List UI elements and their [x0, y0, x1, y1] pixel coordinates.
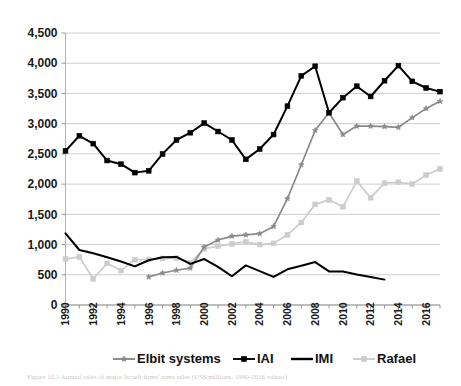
data-point-marker: [243, 232, 249, 237]
data-point-marker: [396, 63, 401, 68]
data-point-marker: [354, 84, 359, 89]
data-point-marker: [216, 129, 221, 134]
data-point-marker: [105, 158, 110, 163]
data-point-marker: [230, 242, 235, 247]
data-point-marker: [119, 268, 124, 273]
chart-legend: Elbit systemsIAIIMIRafael: [113, 351, 416, 366]
series-iai: [63, 63, 442, 175]
x-axis-tick-label: 2014: [392, 302, 404, 326]
data-point-marker: [146, 168, 151, 173]
legend-item-imi[interactable]: IMI: [291, 351, 333, 366]
y-axis-tick-label: 500: [37, 268, 57, 282]
data-point-marker: [341, 95, 346, 100]
data-point-marker: [257, 147, 262, 152]
data-point-marker: [160, 151, 165, 156]
x-axis-tick-label: 1994: [115, 302, 127, 326]
legend-item-label: IMI: [315, 351, 333, 366]
data-point-marker: [368, 195, 373, 200]
series-elbit-systems: [146, 98, 443, 279]
series-line: [66, 233, 385, 279]
data-point-marker: [242, 357, 247, 362]
line-chart: 05001,0001,5002,0002,5003,0003,5004,0004…: [0, 0, 461, 386]
data-point-marker: [243, 157, 248, 162]
data-point-marker: [121, 356, 127, 362]
data-point-marker: [438, 89, 443, 94]
data-point-marker: [174, 267, 180, 272]
x-axis-tick-label: 2012: [364, 302, 376, 326]
data-point-marker: [299, 74, 304, 79]
legend-item-label: IAI: [257, 351, 274, 366]
data-point-marker: [396, 180, 401, 185]
data-point-marker: [285, 196, 291, 201]
x-axis-tick-label: 2008: [309, 302, 321, 326]
data-point-marker: [91, 277, 96, 282]
series-line: [149, 101, 440, 277]
x-axis-tick-label: 2010: [337, 302, 349, 326]
y-axis-tick-label: 0: [51, 298, 58, 312]
data-point-marker: [77, 255, 82, 260]
gridlines: [66, 33, 441, 305]
data-point-marker: [438, 167, 443, 172]
data-point-marker: [188, 130, 193, 135]
data-point-marker: [285, 232, 290, 237]
data-point-marker: [424, 86, 429, 91]
data-point-marker: [105, 261, 110, 266]
x-axis-tick-label: 2000: [198, 302, 210, 326]
y-axis-tick-label: 3,000: [27, 117, 57, 131]
data-point-marker: [132, 257, 137, 262]
data-point-marker: [327, 110, 332, 115]
data-point-marker: [341, 204, 346, 209]
y-axis-tick-label: 4,500: [27, 26, 57, 40]
data-point-marker: [77, 133, 82, 138]
x-axis-tick-label: 1990: [59, 302, 71, 326]
data-point-marker: [271, 132, 276, 137]
series-imi: [66, 233, 385, 279]
x-axis-tick-label: 1998: [170, 302, 182, 326]
data-point-marker: [382, 124, 388, 129]
data-point-marker: [229, 233, 235, 238]
y-axis-tick-label: 2,000: [27, 177, 57, 191]
y-axis-tick-label: 1,500: [27, 208, 57, 222]
data-point-marker: [410, 182, 415, 187]
x-axis-tick-label: 2002: [226, 302, 238, 326]
figure-container: 05001,0001,5002,0002,5003,0003,5004,0004…: [0, 0, 461, 386]
data-point-marker: [132, 170, 137, 175]
y-axis-tick-label: 3,500: [27, 87, 57, 101]
data-point-marker: [368, 94, 373, 99]
data-point-marker: [63, 257, 68, 262]
data-point-marker: [243, 239, 248, 244]
data-point-marker: [91, 141, 96, 146]
data-point-marker: [230, 138, 235, 143]
x-axis-tick-label: 2006: [281, 302, 293, 326]
x-axis-tick-label: 1996: [143, 302, 155, 326]
y-axis-tick-label: 2,500: [27, 147, 57, 161]
data-point-marker: [202, 121, 207, 126]
legend-item-rafael[interactable]: Rafael: [353, 351, 416, 366]
data-point-marker: [382, 78, 387, 83]
data-point-marker: [285, 104, 290, 109]
data-point-marker: [271, 241, 276, 246]
data-point-marker: [257, 231, 263, 236]
x-axis-tick-label: 1992: [87, 302, 99, 326]
data-point-marker: [354, 179, 359, 184]
y-axis-tick-labels: 05001,0001,5002,0002,5003,0003,5004,0004…: [27, 26, 65, 312]
y-axis-tick-label: 1,000: [27, 238, 57, 252]
data-point-marker: [298, 162, 304, 167]
legend-item-elbit-systems[interactable]: Elbit systems: [113, 351, 221, 366]
y-axis-tick-label: 4,000: [27, 56, 57, 70]
data-point-marker: [424, 173, 429, 178]
data-point-marker: [257, 242, 262, 247]
legend-item-label: Elbit systems: [137, 351, 221, 366]
data-point-marker: [410, 79, 415, 84]
data-point-marker: [216, 244, 221, 249]
data-point-marker: [174, 138, 179, 143]
data-point-marker: [119, 162, 124, 167]
data-point-marker: [313, 64, 318, 69]
legend-item-iai[interactable]: IAI: [233, 351, 274, 366]
figure-caption: Figure 10.1 Annual sales of major Israel…: [27, 373, 447, 382]
x-axis-tick-label: 2016: [420, 302, 432, 326]
data-point-marker: [362, 357, 367, 362]
legend-item-label: Rafael: [377, 351, 416, 366]
data-series-group: [63, 63, 443, 281]
data-point-marker: [313, 202, 318, 207]
